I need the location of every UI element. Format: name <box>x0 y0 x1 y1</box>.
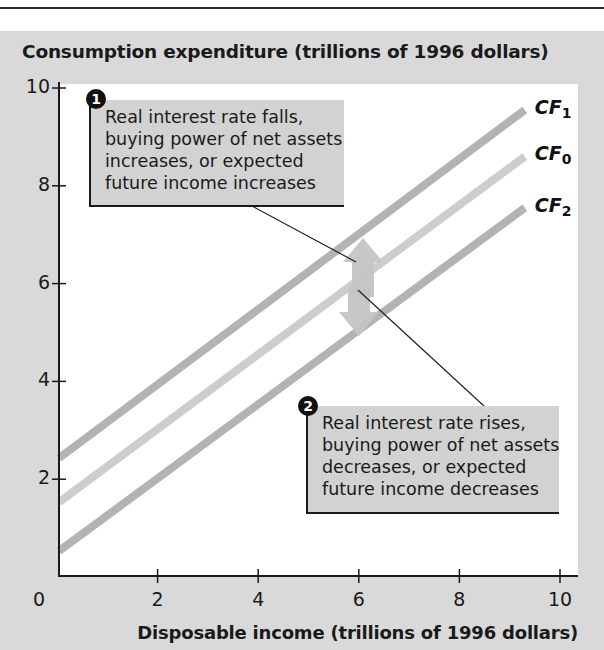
x-tick-label: 8 <box>439 590 479 609</box>
curve-label-cf2: CF2 <box>535 194 572 219</box>
callout-increase-line: Real interest rate falls, <box>105 106 338 128</box>
callout-increase-line: future income increases <box>105 172 338 194</box>
y-tick-label: 10 <box>10 77 50 96</box>
leader-line-1 <box>252 206 356 262</box>
step-badge-1: 1 <box>86 89 106 109</box>
callout-decrease-line: Real interest rate rises, <box>322 412 553 434</box>
x-tick-label: 0 <box>19 590 59 609</box>
x-tick-label: 4 <box>238 590 278 609</box>
curve-label-cf0: CF0 <box>535 142 572 167</box>
callout-decrease-line: decreases, or expected <box>322 456 553 478</box>
callout-increase: Real interest rate falls, buying power o… <box>89 100 344 207</box>
x-axis-title: Disposable income (trillions of 1996 dol… <box>137 622 578 643</box>
callout-decrease: Real interest rate rises, buying power o… <box>306 406 559 514</box>
callout-decrease-line: future income decreases <box>322 478 553 500</box>
y-tick-label: 8 <box>10 175 50 194</box>
y-tick-label: 4 <box>10 370 50 389</box>
leader-line-2 <box>358 290 484 406</box>
callout-increase-line: buying power of net assets <box>105 128 338 150</box>
callout-decrease-line: buying power of net assets <box>322 434 553 456</box>
x-tick-label: 10 <box>540 590 580 609</box>
callout-increase-line: increases, or expected <box>105 150 338 172</box>
curve-label-cf1: CF1 <box>535 96 572 121</box>
x-tick-label: 6 <box>339 590 379 609</box>
x-tick-label: 2 <box>138 590 178 609</box>
y-tick-label: 2 <box>10 468 50 487</box>
step-badge-2: 2 <box>298 396 318 416</box>
y-tick-label: 6 <box>10 273 50 292</box>
